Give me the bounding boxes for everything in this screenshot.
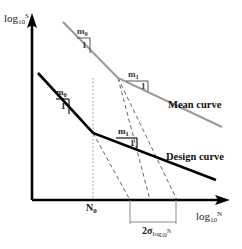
design-slope-m1-label: m1 <box>118 127 129 137</box>
sn-curve-figure: log10S log10N m0 1 m1 1 m0 1 m1 1 Mean c… <box>0 0 242 249</box>
design-slope-m0-one: 1 <box>61 102 66 111</box>
dashed-design-extension-line <box>93 133 130 200</box>
mean-slope-m1-label: m1 <box>128 70 139 80</box>
scatter-band-label: 2σlog10N <box>142 226 171 239</box>
x-axis-label: log10N <box>196 211 222 224</box>
scatter-band-bracket <box>130 200 176 224</box>
mean-slope-m0-label: m0 <box>77 27 88 37</box>
mean-slope-m0-one: 1 <box>82 41 87 50</box>
dashed-mean-extension-line <box>118 78 177 200</box>
mean-slope-m1-one: 1 <box>141 82 146 91</box>
n0-tick-label: N0 <box>86 203 97 215</box>
design-curve-label: Design curve <box>166 152 224 163</box>
scatter-band-sublabel: log10N <box>152 230 170 238</box>
design-slope-m1-one: 1 <box>130 139 135 148</box>
design-slope-m0-label: m0 <box>56 88 67 98</box>
y-axis-label: log10S <box>4 13 29 26</box>
mean-curve-label: Mean curve <box>168 100 221 111</box>
